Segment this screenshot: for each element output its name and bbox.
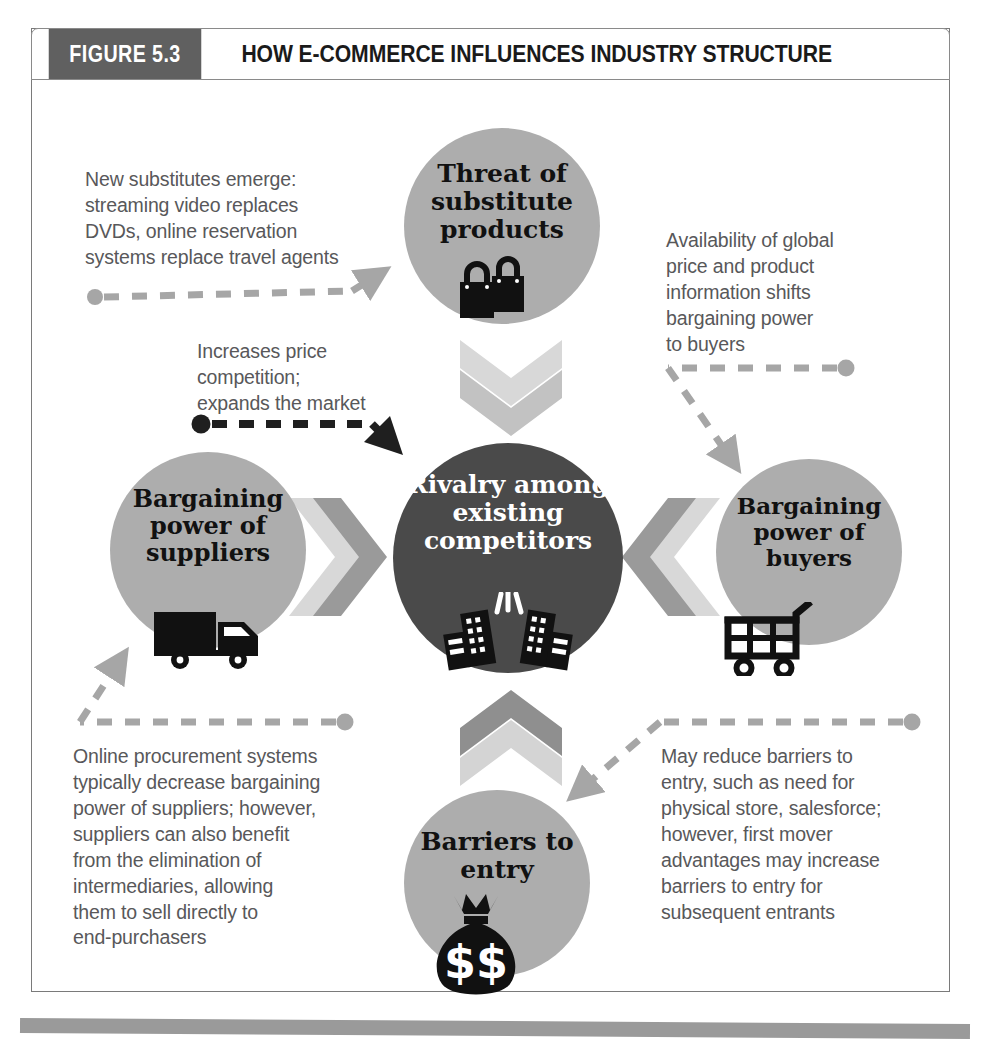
connector-dot-buyers — [838, 360, 855, 377]
connector-arrow-buyers — [668, 368, 731, 459]
connector-dot-barriers — [904, 714, 921, 731]
connector-arrow-barriers — [580, 722, 660, 790]
force-label-barriers: Barriers to entry — [404, 826, 590, 884]
chevron-left-icon — [622, 492, 722, 622]
note-substitutes: New substitutes emerge: streaming video … — [85, 167, 405, 271]
diagram-canvas: Threat of substitute products Rivalry am… — [0, 0, 981, 1061]
chevron-down-icon — [452, 338, 570, 438]
connector-arrow-suppliers — [80, 662, 119, 722]
delivery-truck-icon — [152, 606, 268, 670]
note-barriers: May reduce barriers to entry, such as ne… — [661, 744, 926, 925]
force-label-buyers: Bargaining power of buyers — [716, 491, 902, 570]
force-label-rivalry: Rivalry among existing competitors — [393, 469, 623, 555]
connector-line-substitutes — [104, 291, 352, 297]
connector-arrow-substitutes — [352, 276, 376, 291]
force-label-suppliers: Bargaining power of suppliers — [110, 484, 306, 567]
shopping-bags-icon — [456, 254, 548, 318]
force-label-substitutes: Threat of substitute products — [404, 158, 600, 244]
colliding-buildings-icon — [437, 592, 579, 672]
note-buyers: Availability of global price and product… — [666, 228, 896, 358]
note-rivalry: Increases price competition; expands the… — [197, 339, 457, 417]
shopping-cart-icon — [722, 602, 818, 676]
money-bag-icon: $$ — [424, 892, 528, 1002]
connector-dot-suppliers — [337, 714, 354, 731]
connector-dot-substitutes — [87, 289, 103, 305]
note-suppliers: Online procurement systems typically dec… — [73, 744, 393, 951]
chevron-up-icon — [452, 688, 570, 788]
connector-arrow-rivalry — [372, 424, 390, 442]
svg-text:$$: $$ — [444, 935, 508, 989]
connector-dot-rivalry — [192, 415, 211, 434]
